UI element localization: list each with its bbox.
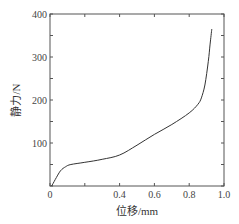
data-series bbox=[52, 29, 212, 186]
plot-frame bbox=[50, 14, 224, 186]
x-axis-label: 位移/mm bbox=[116, 204, 159, 217]
y-axis-ticks bbox=[50, 14, 224, 186]
x-axis-ticks bbox=[50, 14, 224, 186]
x-tick-label: 0.8 bbox=[183, 189, 196, 200]
y-axis-label: 静力/N bbox=[9, 83, 22, 116]
series-line bbox=[52, 29, 212, 186]
x-tick-label: 0 bbox=[48, 189, 53, 200]
y-tick-label: 100 bbox=[32, 138, 47, 149]
y-tick-label: 300 bbox=[32, 52, 47, 63]
x-tick-label: 0.6 bbox=[148, 189, 161, 200]
chart: 00.40.60.81.0 100200300400 位移/mm 静力/N bbox=[0, 0, 239, 224]
y-axis-tick-labels: 100200300400 bbox=[32, 9, 47, 149]
y-tick-label: 400 bbox=[32, 9, 47, 20]
y-tick-label: 200 bbox=[32, 95, 47, 106]
x-tick-label: 0.4 bbox=[113, 189, 126, 200]
x-tick-label: 1.0 bbox=[218, 189, 231, 200]
x-axis-tick-labels: 00.40.60.81.0 bbox=[48, 189, 231, 200]
